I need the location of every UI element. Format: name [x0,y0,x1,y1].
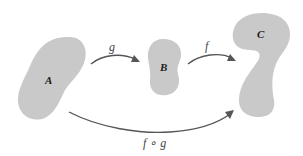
set-b-label: B [159,61,167,73]
arrow-f-line [188,55,232,64]
composition-diagram: A B C g f f ∘ g [0,0,303,156]
set-b: B [148,39,181,95]
set-a-label: A [44,74,52,86]
arrow-f-head [227,54,236,61]
set-c-label: C [257,28,265,40]
arrow-g-line [91,55,135,64]
arrow-g-label: g [109,40,115,54]
arrow-g: g [91,40,140,64]
set-c: C [233,13,290,117]
arrow-fog-line [69,112,230,132]
set-a: A [18,37,86,120]
arrow-f: f [188,39,236,64]
arrow-f-label: f [205,39,210,53]
arrow-fog-label: f ∘ g [143,136,166,150]
arrow-fog: f ∘ g [69,110,234,150]
arrow-fog-head [225,110,234,119]
